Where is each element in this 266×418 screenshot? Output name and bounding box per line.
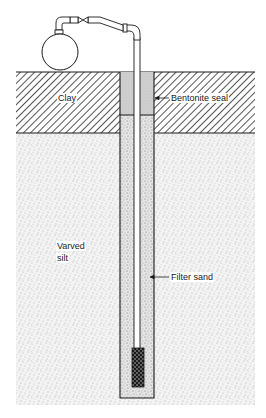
valve [78,17,88,23]
hose [88,17,123,31]
coupling-right [123,24,127,32]
valve-inlet [70,17,78,23]
diagram-canvas [0,0,266,418]
tank-fitting [55,30,63,34]
well-diagram: Clay Bentonite seal Varved silt Filter s… [0,0,266,418]
label-filter-sand: Filter sand [170,272,214,282]
tank-elbow [56,17,70,30]
riser-pipe [134,38,140,349]
label-bentonite-seal: Bentonite seal [170,93,229,103]
tank [42,34,78,70]
well-screen [132,348,144,387]
riser-elbow [126,25,140,40]
label-silt: silt [56,253,69,263]
label-varved: Varved [56,241,86,251]
label-clay: Clay [57,93,77,103]
